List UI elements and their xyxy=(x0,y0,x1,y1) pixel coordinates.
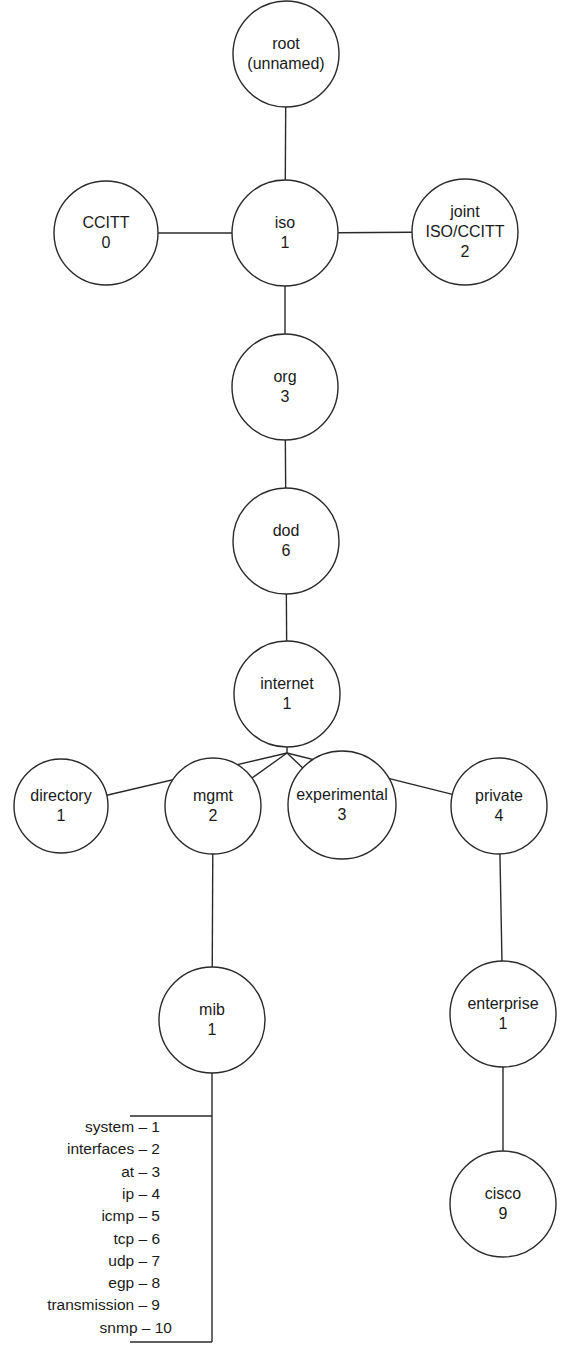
node-circle xyxy=(165,758,261,854)
node-circle xyxy=(233,488,339,594)
node-name: root xyxy=(272,35,300,52)
node-root: root(unnamed) xyxy=(233,1,339,107)
node-name: cisco xyxy=(485,1185,522,1202)
node-name: internet xyxy=(260,675,314,692)
mib-group-item: ip – 4 xyxy=(122,1185,160,1202)
mib-group-item: udp – 7 xyxy=(108,1252,160,1269)
node-number: 3 xyxy=(281,388,290,405)
node-circle xyxy=(232,180,338,286)
node-name: mib xyxy=(199,1001,225,1018)
node-number: 9 xyxy=(499,1205,508,1222)
node-name: private xyxy=(475,787,523,804)
mib-group-item: snmp – 10 xyxy=(100,1319,173,1336)
mib-group-item: egp – 8 xyxy=(108,1274,160,1291)
node-circle xyxy=(54,181,158,285)
node-name: CCITT xyxy=(82,214,129,231)
node-number: 1 xyxy=(499,1015,508,1032)
node-name: dod xyxy=(273,522,300,539)
node-org: org3 xyxy=(232,334,338,440)
node-iso: iso1 xyxy=(232,180,338,286)
node-private: private4 xyxy=(451,758,547,854)
oid-tree-diagram: root(unnamed)CCITT0iso1jointISO/CCITT2or… xyxy=(0,0,576,1371)
node-name: ISO/CCITT xyxy=(425,223,504,240)
node-directory: directory1 xyxy=(14,759,108,853)
node-mgmt: mgmt2 xyxy=(165,758,261,854)
node-number: 4 xyxy=(495,807,504,824)
node-circle xyxy=(159,967,265,1073)
node-name: directory xyxy=(30,787,91,804)
node-number: 0 xyxy=(102,234,111,251)
node-circle xyxy=(450,1151,556,1257)
node-name: enterprise xyxy=(467,995,538,1012)
node-internet: internet1 xyxy=(234,641,340,747)
node-number: (unnamed) xyxy=(247,55,324,72)
node-enterprise: enterprise1 xyxy=(450,961,556,1067)
node-ccitt: CCITT0 xyxy=(54,181,158,285)
mib-group-item: system – 1 xyxy=(85,1118,160,1135)
node-number: 1 xyxy=(281,234,290,251)
node-name: experimental xyxy=(296,786,388,803)
node-number: 1 xyxy=(283,695,292,712)
node-circle xyxy=(450,961,556,1067)
node-circle xyxy=(232,334,338,440)
mib-group-item: transmission – 9 xyxy=(47,1296,160,1313)
node-circle xyxy=(288,751,396,859)
node-circle xyxy=(234,641,340,747)
mib-group-item: interfaces – 2 xyxy=(67,1140,160,1157)
node-name: iso xyxy=(275,214,296,231)
node-name: mgmt xyxy=(193,787,234,804)
node-number: 2 xyxy=(461,243,470,260)
node-number: 1 xyxy=(57,807,66,824)
node-number: 6 xyxy=(282,542,291,559)
mib-group-list: system – 1interfaces – 2at – 3ip – 4icmp… xyxy=(47,1073,212,1342)
node-number: 1 xyxy=(208,1021,217,1038)
node-number: 2 xyxy=(209,807,218,824)
node-cisco: cisco9 xyxy=(450,1151,556,1257)
node-joint: jointISO/CCITT2 xyxy=(412,179,518,285)
tree-nodes: root(unnamed)CCITT0iso1jointISO/CCITT2or… xyxy=(14,1,556,1257)
node-experimental: experimental3 xyxy=(288,751,396,859)
node-circle xyxy=(451,758,547,854)
mib-group-item: icmp – 5 xyxy=(101,1207,160,1224)
node-circle xyxy=(233,1,339,107)
node-circle xyxy=(14,759,108,853)
node-number: 3 xyxy=(338,806,347,823)
node-dod: dod6 xyxy=(233,488,339,594)
mib-group-item: at – 3 xyxy=(121,1163,160,1180)
node-name: org xyxy=(273,368,296,385)
node-name: joint xyxy=(449,203,480,220)
edge-private-enterprise xyxy=(500,854,502,961)
node-mib: mib1 xyxy=(159,967,265,1073)
edge-mgmt-mib xyxy=(212,854,213,967)
mib-group-item: tcp – 6 xyxy=(113,1230,160,1247)
